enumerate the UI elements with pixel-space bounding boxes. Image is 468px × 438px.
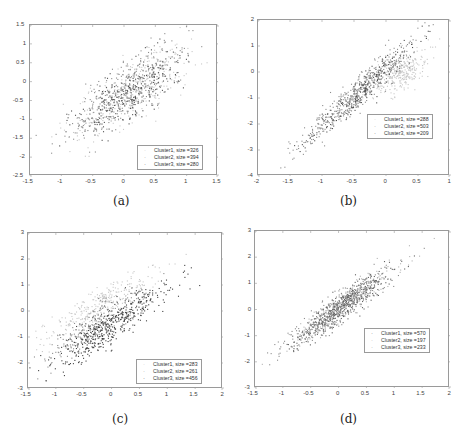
caption: (d)	[340, 412, 357, 426]
x-tick-label: -0.5	[347, 178, 357, 184]
marker-icon: ·	[140, 147, 150, 154]
marker-icon: ·	[139, 375, 149, 382]
plot-area	[254, 230, 449, 387]
y-tick-label: -3	[244, 384, 249, 390]
marker-icon: ·	[140, 161, 150, 168]
x-tick-label: -0.5	[85, 178, 95, 184]
legend-entry-cluster1: ·Cluster1, size =326	[140, 147, 199, 154]
x-tick-label: 1	[447, 178, 450, 184]
legend: ·Cluster1, size =570 ·Cluster2, size =19…	[364, 328, 430, 353]
y-tick-label: 1	[23, 40, 26, 46]
y-tick-label: 3	[21, 229, 24, 235]
x-tick-label: 0.5	[150, 178, 158, 184]
legend-entry-cluster2: ·Cluster2, size =503	[370, 123, 429, 130]
x-tick-label: -1	[57, 178, 62, 184]
y-tick-label: -2	[17, 359, 22, 365]
x-tick-label: -0.5	[303, 390, 313, 396]
y-tick-label: -2	[247, 120, 252, 126]
x-tick-label: 0	[109, 391, 112, 397]
x-tick-label: 0	[121, 178, 124, 184]
x-tick-label: 1	[392, 390, 395, 396]
x-tick-label: -0.5	[76, 391, 86, 397]
legend: ·Cluster1, size =283 ·Cluster2, size =26…	[136, 359, 202, 384]
y-tick-label: -1	[17, 333, 22, 339]
marker-icon: ·	[370, 116, 380, 123]
marker-icon: ·	[140, 154, 150, 161]
y-tick-label: -3	[247, 146, 252, 152]
y-tick-label: -2.5	[13, 172, 23, 178]
x-tick-label: 0	[336, 390, 339, 396]
y-tick-label: 2	[21, 255, 24, 261]
x-tick-label: -1	[52, 391, 57, 397]
y-tick-label: -1.5	[13, 134, 23, 140]
legend-entry-cluster2: ·Cluster2, size =394	[140, 154, 199, 161]
legend-entry-cluster2: ·Cluster2, size =261	[139, 368, 198, 375]
x-tick-label: 1.5	[189, 391, 197, 397]
y-tick-label: 1	[248, 279, 251, 285]
legend-entry-cluster3: ·Cluster3, size =280	[140, 161, 199, 168]
y-tick-label: -1	[19, 115, 24, 121]
y-tick-label: 0.5	[16, 59, 24, 65]
x-tick-label: 1	[165, 391, 168, 397]
legend-entry-cluster3: ·Cluster3, size =233	[367, 344, 426, 351]
y-tick-label: 0	[23, 78, 26, 84]
y-tick-label: 2	[251, 16, 254, 22]
legend-entry-cluster1: ·Cluster1, size =570	[367, 330, 426, 337]
x-tick-label: 1.5	[212, 178, 220, 184]
y-tick-label: -1	[247, 94, 252, 100]
scatter-points	[258, 20, 450, 176]
marker-icon: ·	[367, 344, 377, 351]
x-tick-label: -2	[254, 178, 259, 184]
legend: ·Cluster1, size =288 ·Cluster2, size =50…	[367, 114, 433, 139]
x-tick-label: 0	[383, 178, 386, 184]
plot-area	[257, 19, 449, 175]
legend-entry-cluster2: ·Cluster2, size =197	[367, 337, 426, 344]
y-tick-label: 1	[251, 42, 254, 48]
y-tick-label: 1	[21, 281, 24, 287]
y-tick-label: 0	[251, 68, 254, 74]
y-tick-label: -0.5	[13, 97, 23, 103]
x-tick-label: 2	[447, 390, 450, 396]
legend-entry-cluster3: ·Cluster3, size =209	[370, 130, 429, 137]
marker-icon: ·	[139, 361, 149, 368]
x-tick-label: -1.5	[248, 390, 258, 396]
x-tick-label: -1.5	[283, 178, 293, 184]
caption: (b)	[340, 194, 357, 208]
x-tick-label: 2	[220, 391, 223, 397]
legend-entry-cluster1: ·Cluster1, size =283	[139, 361, 198, 368]
marker-icon: ·	[370, 130, 380, 137]
x-tick-label: 1	[184, 178, 187, 184]
y-tick-label: -2	[244, 358, 249, 364]
y-tick-label: -4	[247, 172, 252, 178]
y-tick-label: 1.5	[16, 21, 24, 27]
x-tick-label: -1.5	[21, 391, 31, 397]
legend-entry-cluster1: ·Cluster1, size =288	[370, 116, 429, 123]
marker-icon: ·	[367, 330, 377, 337]
marker-icon: ·	[367, 337, 377, 344]
y-tick-label: 0	[21, 307, 24, 313]
y-tick-label: 3	[248, 227, 251, 233]
x-tick-label: 0.5	[361, 390, 369, 396]
x-tick-label: 0.5	[134, 391, 142, 397]
x-tick-label: 1.5	[416, 390, 424, 396]
y-tick-label: 0	[248, 306, 251, 312]
x-tick-label: 0.5	[412, 178, 420, 184]
caption: (a)	[113, 194, 130, 208]
y-tick-label: 2	[248, 253, 251, 259]
marker-icon: ·	[139, 368, 149, 375]
marker-icon: ·	[370, 123, 380, 130]
y-tick-label: -2	[19, 153, 24, 159]
x-tick-label: -1.5	[23, 178, 33, 184]
caption: (c)	[112, 412, 128, 426]
x-tick-label: -1	[279, 390, 284, 396]
legend: ·Cluster1, size =326 ·Cluster2, size =39…	[137, 145, 203, 170]
y-tick-label: -3	[17, 385, 22, 391]
scatter-points	[255, 231, 450, 388]
y-tick-label: -1	[244, 332, 249, 338]
x-tick-label: -1	[318, 178, 323, 184]
legend-entry-cluster3: ·Cluster3, size =456	[139, 375, 198, 382]
